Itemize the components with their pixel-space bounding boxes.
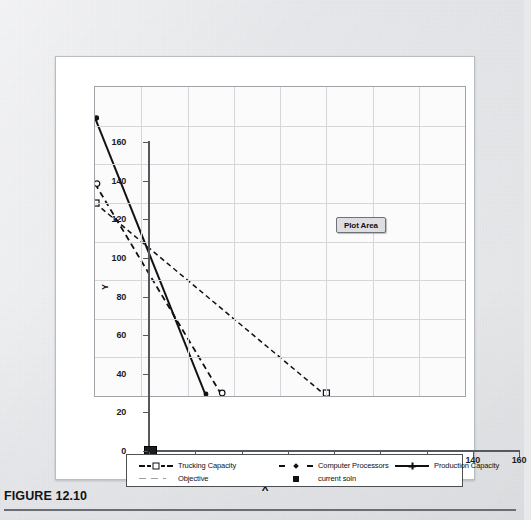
y-tick-40 — [143, 374, 148, 375]
marker-computer-processors-start — [95, 181, 100, 187]
gridline-y-80 — [95, 242, 465, 243]
y-tick-160 — [143, 142, 148, 143]
marker-production-capacity-start — [95, 115, 99, 120]
legend-item-production-capacity[interactable]: Production Capacity — [395, 461, 499, 470]
legend-label-current-soln: current soln — [318, 474, 356, 483]
gridline-y-40 — [95, 319, 465, 320]
legend-item-objective[interactable]: Objective — [139, 474, 208, 483]
gridline-y-100 — [95, 203, 465, 204]
legend-swatch-square-marker-icon — [279, 474, 313, 483]
y-tick-label-0: 0 — [102, 446, 126, 456]
y-axis-line — [148, 141, 150, 453]
plot-area-tooltip: Plot Area — [336, 217, 386, 233]
legend-label-production-capacity: Production Capacity — [434, 461, 499, 470]
y-tick-60 — [143, 335, 148, 336]
y-tick-label-160: 160 — [102, 137, 126, 147]
y-tick-20 — [143, 412, 148, 413]
legend-label-objective: Objective — [178, 474, 208, 483]
gridline-y-60 — [95, 280, 465, 281]
legend-swatch-solid-plus-icon — [395, 461, 429, 470]
legend-swatch-dashed-light-icon — [139, 474, 173, 483]
figure-caption: FIGURE 12.10 — [4, 489, 87, 503]
gridline-y-140 — [95, 126, 465, 127]
y-axis-title: Y — [100, 284, 110, 290]
y-tick-label-140: 140 — [102, 176, 126, 186]
gridline-y-120 — [95, 164, 465, 165]
chart-legend[interactable]: Trucking Capacity Computer Processors Pr… — [126, 454, 463, 487]
legend-label-trucking-capacity: Trucking Capacity — [178, 461, 236, 470]
y-tick-0 — [143, 451, 148, 452]
legend-label-computer-processors: Computer Processors — [318, 461, 389, 470]
x-tick-label-160: 160 — [504, 455, 531, 465]
series-line-trucking-capacity — [95, 203, 326, 396]
y-tick-100 — [143, 258, 148, 259]
legend-swatch-dashed-square-icon — [139, 461, 173, 470]
y-tick-label-100: 100 — [102, 253, 126, 263]
y-tick-80 — [143, 297, 148, 298]
y-tick-label-120: 120 — [102, 214, 126, 224]
gridline-y-20 — [95, 357, 465, 358]
legend-item-computer-processors[interactable]: Computer Processors — [279, 461, 389, 470]
y-tick-140 — [143, 181, 148, 182]
legend-item-trucking-capacity[interactable]: Trucking Capacity — [139, 461, 236, 470]
y-tick-label-60: 60 — [102, 330, 126, 340]
chart-card: 160 140 120 100 80 60 40 20 0 0 20 40 60… — [55, 56, 475, 480]
legend-swatch-dashed-diamond-icon — [279, 461, 313, 470]
y-tick-label-20: 20 — [102, 407, 126, 417]
y-tick-label-40: 40 — [102, 369, 126, 379]
legend-item-current-soln[interactable]: current soln — [279, 474, 356, 483]
y-tick-label-80: 80 — [102, 292, 126, 302]
y-tick-120 — [143, 219, 148, 220]
marker-computer-processors-end — [219, 390, 225, 396]
caption-divider — [4, 509, 516, 511]
